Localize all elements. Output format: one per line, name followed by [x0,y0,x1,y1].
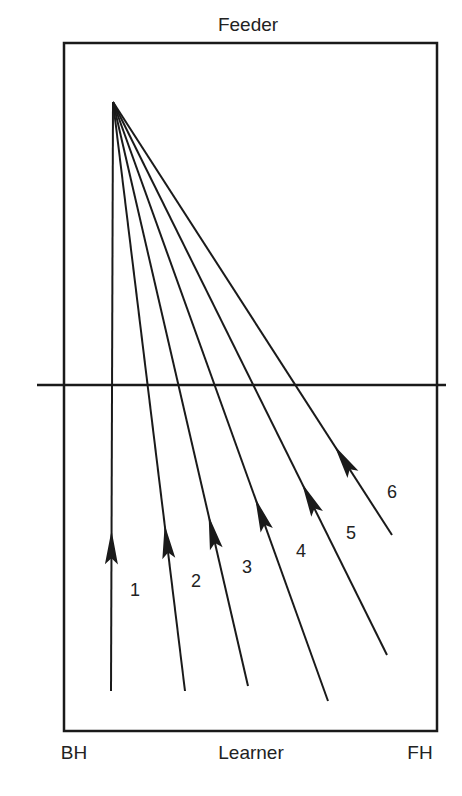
arrowhead-icon [302,484,323,517]
feeding-diagram: Feeder 123456 BH Learner FH [0,0,462,796]
ray-line [113,102,185,691]
ray-number-label: 2 [191,571,201,591]
learner-label: Learner [218,742,284,763]
ray-6: 6 [113,102,397,535]
ray-number-label: 1 [130,580,140,600]
ray-number-label: 4 [296,541,306,561]
ray-4: 4 [113,102,328,701]
arrowhead-icon [335,446,359,478]
backhand-label: BH [61,742,87,763]
ray-number-label: 5 [346,523,356,543]
ray-number-label: 6 [387,482,397,502]
ray-1: 1 [105,102,140,691]
court-rectangle [64,43,437,731]
ray-line [113,102,328,701]
feeder-label: Feeder [218,14,279,35]
arrowhead-icon [255,498,273,532]
ray-number-label: 3 [242,557,252,577]
forehand-label: FH [407,742,432,763]
ray-line [113,102,392,535]
ray-line [111,102,113,691]
ray-group: 123456 [105,102,397,701]
